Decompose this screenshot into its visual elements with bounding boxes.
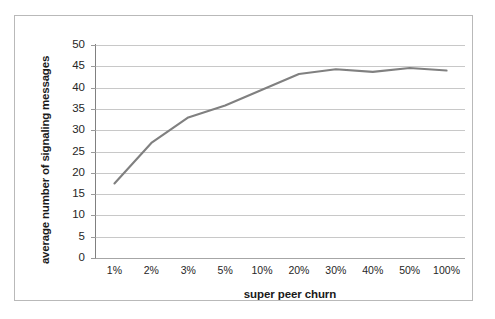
y-tick-20 (91, 173, 96, 174)
y-tick-label-wrap: 25 (59, 146, 85, 157)
y-tick-50 (91, 45, 96, 46)
y-axis-title: average number of signaling messages (37, 50, 53, 270)
chart-frame: average number of signaling messages 051… (14, 15, 473, 301)
figure-root: average number of signaling messages 051… (0, 0, 495, 319)
gridline-0 (96, 258, 465, 259)
y-tick-label-5: 5 (59, 231, 85, 242)
y-tick-label-50: 50 (59, 39, 85, 50)
y-tick-label-wrap: 15 (59, 188, 85, 199)
y-tick-30 (91, 130, 96, 131)
y-tick-0 (91, 258, 96, 259)
y-tick-label-wrap: 40 (59, 82, 85, 93)
y-tick-35 (91, 109, 96, 110)
y-tick-label-0: 0 (59, 252, 85, 263)
y-tick-15 (91, 194, 96, 195)
y-tick-40 (91, 88, 96, 89)
y-tick-label-45: 45 (59, 60, 85, 71)
y-tick-45 (91, 66, 96, 67)
y-tick-5 (91, 237, 96, 238)
y-tick-10 (91, 215, 96, 216)
x-axis-title: super peer churn (95, 288, 485, 300)
y-tick-label-wrap: 50 (59, 39, 85, 50)
y-tick-label-30: 30 (59, 124, 85, 135)
y-tick-label-wrap: 30 (59, 124, 85, 135)
y-tick-label-wrap: 20 (59, 167, 85, 178)
y-tick-label-15: 15 (59, 188, 85, 199)
y-tick-label-10: 10 (59, 209, 85, 220)
y-tick-label-40: 40 (59, 82, 85, 93)
y-tick-label-25: 25 (59, 146, 85, 157)
y-tick-label-35: 35 (59, 103, 85, 114)
x-tick-label-100pct: 100% (422, 264, 472, 276)
scan-artifact-text (18, 0, 248, 7)
series-line-chart (96, 45, 465, 258)
y-tick-label-wrap: 35 (59, 103, 85, 114)
y-tick-label-wrap: 5 (59, 231, 85, 242)
y-tick-label-wrap: 0 (59, 252, 85, 263)
series-polyline (114, 68, 446, 183)
y-tick-label-wrap: 10 (59, 209, 85, 220)
y-tick-label-20: 20 (59, 167, 85, 178)
y-tick-label-wrap: 45 (59, 60, 85, 71)
y-tick-25 (91, 152, 96, 153)
